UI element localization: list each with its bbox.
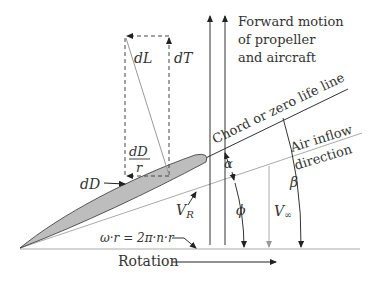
VR-label: VR <box>176 202 194 220</box>
omega-r-leader <box>172 238 196 248</box>
forward-motion-label-3: and aircraft <box>238 50 317 65</box>
dD-over-r-denominator: r <box>136 160 143 175</box>
beta-label: β <box>289 174 298 190</box>
dD-arrow <box>104 183 125 184</box>
alpha-label: α <box>224 156 233 171</box>
dT-label: dT <box>174 50 194 66</box>
rotation-label: Rotation <box>118 253 179 269</box>
propeller-diagram: Forward motion of propeller and aircraft… <box>0 0 375 285</box>
forward-motion-label-1: Forward motion <box>238 14 344 29</box>
dD-over-r-numerator: dD <box>129 144 148 159</box>
dD-label: dD <box>80 176 100 192</box>
forward-motion-label-2: of propeller <box>238 32 316 47</box>
dL-label: dL <box>134 50 152 66</box>
Vinf-label: V∞ <box>274 203 292 220</box>
VR-arrow <box>188 192 196 205</box>
air-inflow-line <box>20 133 362 248</box>
phi-label: ϕ <box>236 202 246 218</box>
omega-r-label: ω·r = 2π·n·r <box>100 231 175 245</box>
